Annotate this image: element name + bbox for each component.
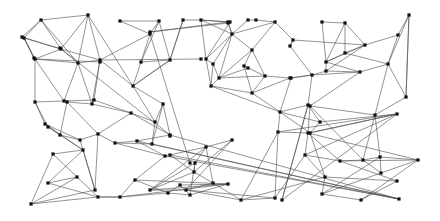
graph-node [308,104,311,107]
graph-node [386,62,389,65]
graph-node [318,120,321,123]
graph-node [379,171,382,174]
graph-node [65,100,68,103]
graph-node [129,111,132,114]
graph-node [404,95,407,98]
graph-node [193,161,196,164]
graph-node [32,56,35,59]
graph-node [157,19,160,22]
graph-node [153,120,156,123]
graph-node [288,76,291,79]
graph-node [188,161,191,164]
graph-node [306,131,309,134]
graph-node [181,18,184,21]
graph-canvas [0,0,440,221]
graph-node [273,20,276,23]
graph-node [199,57,202,60]
graph-node [250,48,253,51]
graph-node [361,158,364,161]
graph-node [46,125,49,128]
graph-node [230,32,233,35]
graph-node [131,84,134,87]
graph-node [192,170,195,173]
graph-node [46,181,49,184]
graph-node [98,60,101,63]
graph-node [278,110,281,113]
graph-node [246,18,249,21]
graph-node [397,197,400,200]
graph-node [58,133,61,136]
graph-node [358,70,361,73]
graph-node [288,44,291,47]
graph-node [291,38,294,41]
graph-node [150,142,153,145]
graph-node [273,196,276,199]
graph-node [239,198,242,201]
graph-node [320,20,323,23]
graph-node [161,102,164,105]
graph-node [254,18,257,21]
graph-node [395,179,398,182]
graph-node [51,152,54,155]
graph-node [280,198,283,201]
graph-node [209,84,212,87]
graph-node [135,139,138,142]
graph-node [230,138,233,141]
graph-node [96,195,99,198]
graph-node [75,175,78,178]
graph-node [343,21,346,24]
graph-node [92,98,95,101]
graph-node [20,35,23,38]
graph-node [338,159,341,162]
graph-node [81,148,84,151]
graph-node [204,145,207,148]
graph-node [226,182,229,185]
graph-node [96,132,99,135]
graph-node [178,183,181,186]
graph-node [113,141,116,144]
graph-node [263,74,266,77]
graph-node [148,188,151,191]
graph-node [250,91,253,94]
graph-node [378,155,381,158]
graph-node [139,60,142,63]
graph-node [166,191,169,194]
graph-node [133,178,136,181]
graph-node [359,198,362,201]
graph-node [246,66,249,69]
graph-node [320,192,323,195]
graph-node [211,181,214,184]
graph-node [276,130,279,133]
graph-node [228,20,231,23]
graph-node [163,154,166,157]
graph-node [43,122,46,125]
graph-node [78,138,81,141]
graph-node [343,51,346,54]
graph-node [168,58,171,61]
graph-node [363,43,366,46]
graph-node [33,100,36,103]
graph-node [188,193,191,196]
graph-node [168,153,171,156]
graph-node [118,19,121,22]
graph-node [58,46,61,49]
graph-node [90,102,93,105]
graph-node [303,153,306,156]
graph-figure [0,0,440,221]
graph-node [416,158,419,161]
graph-node [62,99,65,102]
graph-node [324,69,327,72]
graph-node [184,188,187,191]
graph-node [323,175,326,178]
graph-node [407,13,410,16]
graph-node [217,76,220,79]
graph-node [310,73,313,76]
graph-node [242,64,245,67]
graph-node [39,18,42,21]
graph-node [93,188,96,191]
graph-node [211,62,214,65]
graph-node [86,13,89,16]
graph-node [395,112,398,115]
graph-node [373,113,376,116]
graph-node [324,60,327,63]
